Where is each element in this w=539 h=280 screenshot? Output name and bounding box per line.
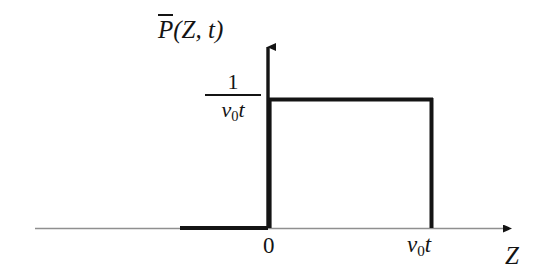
figure-canvas: P(Z, t) Z 0 v0t 1 v0t — [0, 0, 539, 280]
fraction-denominator: v0t — [205, 97, 261, 125]
y-tick-label-amplitude: 1 v0t — [205, 70, 261, 125]
y-axis-label: P(Z, t) — [158, 14, 223, 42]
x-tick-v-symbol: v — [407, 232, 417, 257]
fraction-numerator: 1 — [205, 70, 261, 93]
fraction-t-symbol: t — [238, 97, 244, 122]
fraction-v-symbol: v — [221, 97, 231, 122]
x-tick-label-origin: 0 — [263, 234, 275, 257]
y-axis-label-arguments: (Z, t) — [173, 16, 223, 43]
x-tick-t-symbol: t — [425, 232, 431, 257]
x-tick-v-subscript: 0 — [417, 242, 425, 259]
y-axis-label-symbol: P — [158, 14, 173, 42]
x-axis-label: Z — [505, 243, 519, 268]
x-tick-label-v0t: v0t — [407, 233, 431, 258]
fraction-bar — [205, 94, 261, 96]
